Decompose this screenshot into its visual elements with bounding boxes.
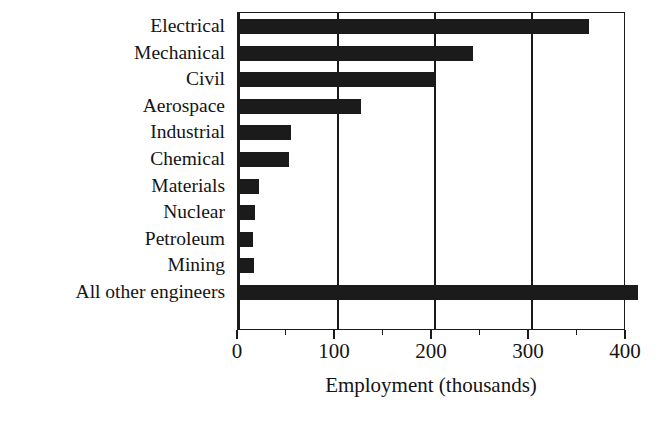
xtick-label-0: 0 bbox=[232, 341, 243, 362]
category-label-petroleum: Petroleum bbox=[0, 229, 231, 249]
category-label-nuclear: Nuclear bbox=[0, 202, 231, 222]
category-label-chemical: Chemical bbox=[0, 149, 231, 169]
xtick-label-200: 200 bbox=[415, 341, 447, 362]
x-axis-tick-labels: 0 100 200 300 400 bbox=[237, 341, 625, 371]
category-label-mining: Mining bbox=[0, 255, 231, 275]
bar-nuclear bbox=[240, 205, 255, 220]
xtick-major-100 bbox=[333, 330, 335, 339]
xtick-major-300 bbox=[527, 330, 529, 339]
xtick-major-200 bbox=[430, 330, 432, 339]
category-label-civil: Civil bbox=[0, 69, 231, 89]
bar-aerospace bbox=[240, 99, 361, 114]
plot-inner bbox=[240, 13, 624, 329]
category-label-all-other-engineers: All other engineers bbox=[0, 282, 231, 302]
category-label-electrical: Electrical bbox=[0, 16, 231, 36]
xtick-minor-350 bbox=[576, 330, 578, 335]
xtick-major-0 bbox=[236, 330, 238, 339]
category-label-industrial: Industrial bbox=[0, 122, 231, 142]
xtick-major-400 bbox=[624, 330, 626, 339]
xtick-label-100: 100 bbox=[318, 341, 350, 362]
x-axis-title: Employment (thousands) bbox=[237, 375, 625, 396]
bar-materials bbox=[240, 179, 259, 194]
bar-mining bbox=[240, 258, 254, 273]
xtick-minor-50 bbox=[285, 330, 287, 335]
category-label-aerospace: Aerospace bbox=[0, 96, 231, 116]
category-axis-labels: Electrical Mechanical Civil Aerospace In… bbox=[0, 12, 231, 330]
bar-mechanical bbox=[240, 46, 473, 61]
category-label-materials: Materials bbox=[0, 176, 231, 196]
bar-petroleum bbox=[240, 232, 253, 247]
xtick-label-300: 300 bbox=[512, 341, 544, 362]
xtick-minor-250 bbox=[479, 330, 481, 335]
bar-electrical bbox=[240, 19, 589, 34]
xtick-minor-150 bbox=[382, 330, 384, 335]
bar-chemical bbox=[240, 152, 289, 167]
bar-civil bbox=[240, 72, 434, 87]
xtick-label-400: 400 bbox=[609, 341, 641, 362]
gridline-300 bbox=[531, 13, 533, 329]
bar-industrial bbox=[240, 125, 291, 140]
category-label-mechanical: Mechanical bbox=[0, 43, 231, 63]
plot-area bbox=[237, 12, 625, 330]
bar-all-other-engineers bbox=[240, 285, 638, 300]
bar-chart-figure: Electrical Mechanical Civil Aerospace In… bbox=[0, 0, 661, 429]
